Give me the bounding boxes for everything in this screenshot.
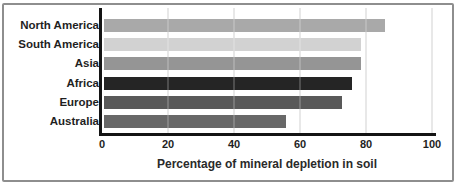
chart-row: Asia (6, 57, 436, 70)
bar-africa (104, 77, 352, 90)
bar-europe (104, 96, 342, 109)
bar-australia (104, 115, 286, 128)
bar-rows: North America South America Asia Africa … (6, 19, 436, 128)
chart-row: North America (6, 19, 436, 32)
bar-track (104, 96, 434, 109)
chart-row: Africa (6, 77, 436, 90)
x-tick-label: 40 (228, 138, 240, 150)
category-label: Africa (6, 77, 101, 90)
bar-track (104, 57, 434, 70)
x-axis-line (99, 133, 436, 136)
bar-track (104, 38, 434, 51)
bar-chart-figure: North America South America Asia Africa … (0, 0, 459, 192)
category-label: North America (6, 19, 101, 32)
bar-south-america (104, 38, 361, 51)
category-label: Australia (6, 115, 101, 128)
bar-asia (104, 57, 361, 70)
chart-row: Australia (6, 115, 436, 128)
category-label: Asia (6, 57, 101, 70)
x-axis-title: Percentage of mineral depletion in soil (102, 157, 432, 171)
category-label: Europe (6, 96, 101, 109)
bar-north-america (104, 19, 385, 32)
bar-track (104, 77, 434, 90)
y-axis-line (99, 8, 102, 136)
x-tick-label: 20 (162, 138, 174, 150)
bar-track (104, 19, 434, 32)
chart-row: South America (6, 38, 436, 51)
x-tick-label: 60 (294, 138, 306, 150)
x-tick-label: 100 (423, 138, 441, 150)
x-tick-label: 80 (360, 138, 372, 150)
category-label: South America (6, 38, 101, 51)
chart-row: Europe (6, 96, 436, 109)
x-tick-label: 0 (99, 138, 105, 150)
x-ticks: 020406080100 (102, 138, 432, 151)
bar-track (104, 115, 434, 128)
